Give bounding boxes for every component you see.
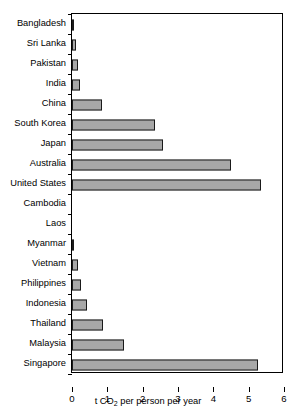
- bar-row: [72, 54, 284, 75]
- x-tick: [107, 387, 108, 392]
- x-tick: [178, 387, 179, 392]
- x-tick: [249, 387, 250, 392]
- y-axis-label-malaysia: Malaysia: [0, 338, 66, 348]
- bar-bangladesh: [72, 19, 74, 30]
- bar-india: [72, 79, 80, 90]
- x-tick: [284, 387, 285, 392]
- y-tick: [68, 94, 72, 95]
- bar-row: [72, 194, 284, 215]
- x-axis-title-post: per person per year: [118, 396, 202, 406]
- y-tick: [68, 234, 72, 235]
- bar-row: [72, 254, 284, 275]
- bar-australia: [72, 159, 231, 170]
- bar-row: [72, 114, 284, 135]
- bar-philippines: [72, 279, 81, 290]
- x-axis-title: t CO2 per person per year: [0, 396, 296, 409]
- y-axis-label-australia: Australia: [0, 158, 66, 168]
- y-tick: [68, 334, 72, 335]
- bar-row: [72, 174, 284, 195]
- bar-thailand: [72, 319, 103, 330]
- bar-row: [72, 74, 284, 95]
- bar-row: [72, 14, 284, 35]
- y-tick: [68, 14, 72, 15]
- y-tick: [68, 294, 72, 295]
- bar-pakistan: [72, 59, 78, 70]
- y-tick: [68, 74, 72, 75]
- y-tick: [68, 274, 72, 275]
- y-tick: [68, 354, 72, 355]
- bar-malaysia: [72, 339, 124, 350]
- bar-indonesia: [72, 299, 87, 310]
- x-tick: [143, 387, 144, 392]
- y-axis-label-pakistan: Pakistan: [0, 58, 66, 68]
- y-axis-label-myanmar: Myanmar: [0, 238, 66, 248]
- y-tick: [68, 374, 72, 375]
- x-tick: [213, 387, 214, 392]
- bar-vietnam: [72, 259, 78, 270]
- bar-row: [72, 94, 284, 115]
- y-axis-label-indonesia: Indonesia: [0, 298, 66, 308]
- y-tick: [68, 254, 72, 255]
- bar-japan: [72, 139, 163, 150]
- y-axis-label-japan: Japan: [0, 138, 66, 148]
- bar-china: [72, 99, 102, 110]
- y-axis-label-cambodia: Cambodia: [0, 198, 66, 208]
- y-axis-label-south-korea: South Korea: [0, 118, 66, 128]
- y-axis-label-china: China: [0, 98, 66, 108]
- y-axis-label-united-states: United States: [0, 178, 66, 188]
- bar-row: [72, 314, 284, 335]
- y-axis-label-sri-lanka: Sri Lanka: [0, 38, 66, 48]
- bar-row: [72, 274, 284, 295]
- x-axis-title-pre: t CO: [95, 396, 114, 406]
- y-tick: [68, 174, 72, 175]
- y-tick: [68, 194, 72, 195]
- y-axis-label-laos: Laos: [0, 218, 66, 228]
- bar-row: [72, 154, 284, 175]
- bar-row: [72, 214, 284, 235]
- y-tick: [68, 154, 72, 155]
- bar-united-states: [72, 179, 261, 190]
- bar-singapore: [72, 359, 258, 370]
- plot-area: 0123456: [71, 13, 283, 373]
- y-axis-label-vietnam: Vietnam: [0, 258, 66, 268]
- bar-myanmar: [72, 239, 74, 250]
- bar-row: [72, 134, 284, 155]
- bar-sri-lanka: [72, 39, 76, 50]
- y-tick: [68, 34, 72, 35]
- bar-chart: 0123456 BangladeshSri LankaPakistanIndia…: [0, 0, 296, 417]
- y-axis-label-philippines: Philippines: [0, 278, 66, 288]
- y-tick: [68, 314, 72, 315]
- x-tick: [72, 387, 73, 392]
- y-tick: [68, 54, 72, 55]
- bar-row: [72, 294, 284, 315]
- bar-row: [72, 354, 284, 375]
- y-axis-label-india: India: [0, 78, 66, 88]
- bar-row: [72, 234, 284, 255]
- bar-row: [72, 334, 284, 355]
- y-tick: [68, 134, 72, 135]
- y-axis-label-thailand: Thailand: [0, 318, 66, 328]
- y-axis-label-bangladesh: Bangladesh: [0, 18, 66, 28]
- bar-row: [72, 34, 284, 55]
- y-tick: [68, 114, 72, 115]
- bar-south-korea: [72, 119, 155, 130]
- y-tick: [68, 214, 72, 215]
- y-axis-label-singapore: Singapore: [0, 358, 66, 368]
